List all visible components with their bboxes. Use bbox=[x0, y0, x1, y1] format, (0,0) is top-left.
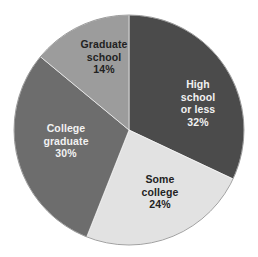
pie-chart bbox=[0, 0, 258, 257]
label-line: Some bbox=[142, 173, 179, 186]
label-line: or less bbox=[181, 103, 216, 116]
label-college-graduate: College graduate 30% bbox=[43, 122, 88, 160]
label-graduate-school: Graduate school 14% bbox=[81, 38, 128, 76]
label-line: Graduate bbox=[81, 38, 128, 51]
label-line: college bbox=[142, 186, 179, 199]
label-some-college: Some college 24% bbox=[142, 173, 179, 211]
label-high-school-or-less: High school or less 32% bbox=[181, 78, 216, 128]
label-value: 14% bbox=[81, 63, 128, 76]
label-value: 30% bbox=[43, 147, 88, 160]
label-line: College bbox=[43, 122, 88, 135]
label-line: school bbox=[81, 51, 128, 64]
label-line: graduate bbox=[43, 135, 88, 148]
label-value: 24% bbox=[142, 198, 179, 211]
label-value: 32% bbox=[181, 116, 216, 129]
label-line: High bbox=[181, 78, 216, 91]
label-line: school bbox=[181, 91, 216, 104]
